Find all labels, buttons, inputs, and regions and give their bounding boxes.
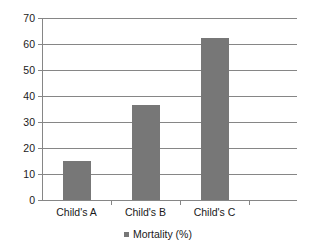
y-tick-label-40: 40 <box>23 91 35 101</box>
x-tick-label-3: Child's C <box>180 206 249 218</box>
plot-area <box>42 18 297 200</box>
y-tick-label-70: 70 <box>23 13 35 23</box>
bar-1[interactable] <box>63 161 91 200</box>
x-tick-mark-2 <box>180 201 181 205</box>
x-tick-mark-3 <box>249 201 250 205</box>
chart-legend: Mortality (%) <box>0 228 316 240</box>
y-tick-mark-0 <box>38 200 43 201</box>
y-tick-label-10: 10 <box>23 169 35 179</box>
y-tick-label-0: 0 <box>29 195 35 205</box>
legend-label-mortality: Mortality (%) <box>133 228 192 240</box>
x-axis-line <box>42 200 297 201</box>
bar-2[interactable] <box>132 105 160 200</box>
y-tick-label-20: 20 <box>23 143 35 153</box>
y-tick-label-50: 50 <box>23 65 35 75</box>
x-tick-label-2: Child's B <box>111 206 180 218</box>
x-tick-label-1: Child's A <box>42 206 111 218</box>
y-tick-label-60: 60 <box>23 39 35 49</box>
x-tick-mark-1 <box>111 201 112 205</box>
legend-swatch-mortality <box>124 232 129 237</box>
bar-3[interactable] <box>201 38 229 201</box>
bar-chart-figure: 010203040506070 Child's AChild's BChild'… <box>0 0 316 249</box>
y-tick-label-30: 30 <box>23 117 35 127</box>
